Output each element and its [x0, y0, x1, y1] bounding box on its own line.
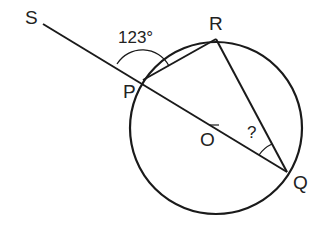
circle-geometry-diagram: S P R Q O 123° ?	[0, 0, 324, 228]
angle-label-SPR: 123°	[118, 28, 153, 47]
angle-arc-SPR	[117, 50, 169, 66]
chord-PR	[143, 39, 216, 80]
label-Q: Q	[293, 172, 308, 193]
label-O: O	[200, 129, 215, 150]
chord-RQ	[216, 39, 287, 172]
label-S: S	[25, 7, 38, 28]
line-SQ	[43, 24, 287, 172]
angle-label-RQP: ?	[247, 123, 256, 142]
label-R: R	[209, 13, 223, 34]
label-P: P	[123, 81, 136, 102]
angle-arc-RQP	[259, 144, 272, 155]
